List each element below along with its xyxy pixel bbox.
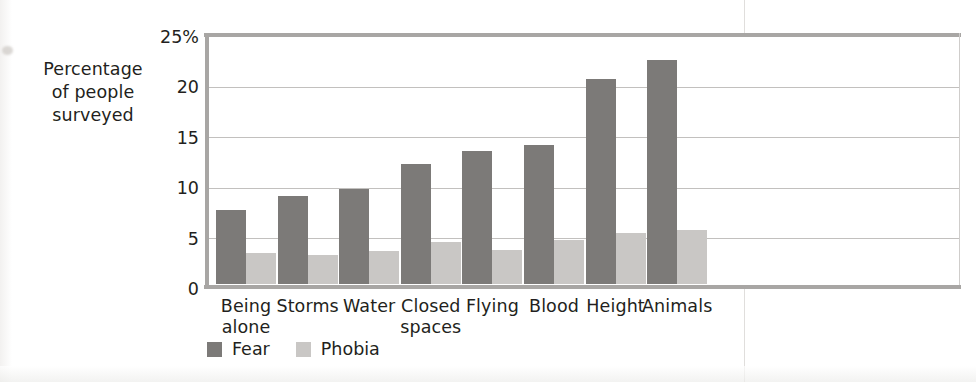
legend-label: Phobia [321,340,380,358]
bar-fear [216,210,246,284]
bar-group [524,32,584,284]
bar-phobia [554,240,584,284]
legend-label: Fear [232,340,270,358]
bar-group [462,32,522,284]
bar-fear [278,196,308,284]
legend-swatch-icon [296,342,311,357]
y-tick-label-0: 0 [139,280,199,298]
bar-group [647,32,707,284]
bar-group [401,32,461,284]
legend-item-fear[interactable]: Fear [207,340,270,358]
bar-fear [647,60,677,284]
y-axis-tick-labels: 0510152025% [135,0,199,382]
x-axis-line [204,285,961,289]
x-axis-tick-labels: BeingaloneStormsWaterClosedspacesFlyingB… [205,296,960,342]
bar-group [216,32,276,284]
y-tick-label-20: 20 [139,78,199,96]
x-tick-label-animals: Animals [629,296,725,317]
bar-fear [462,151,492,284]
x-tick-label-line-1: spaces [383,317,479,338]
bar-phobia [431,242,461,284]
y-tick-label-5: 5 [139,230,199,248]
bar-fear [524,145,554,284]
bar-phobia [492,250,522,284]
bar-group [586,32,646,284]
y-tick-label-25: 25% [139,28,199,46]
scan-artifact-speck [2,46,13,55]
chart-plot-area [205,33,960,288]
chart-legend: FearPhobia [207,340,380,358]
bar-fear [586,79,616,284]
bar-phobia [246,253,276,284]
y-tick-label-15: 15 [139,129,199,147]
x-tick-label-line-0: Animals [629,296,725,317]
bar-fear [401,164,431,284]
bar-fear [339,189,369,284]
bar-phobia [677,230,707,284]
bar-phobia [369,251,399,284]
x-tick-label-line-1: alone [198,317,294,338]
bar-phobia [308,255,338,284]
y-tick-label-10: 10 [139,179,199,197]
bar-groups [205,32,960,284]
legend-item-phobia[interactable]: Phobia [296,340,380,358]
legend-swatch-icon [207,342,222,357]
bar-phobia [616,233,646,284]
bar-group [278,32,338,284]
bar-group [339,32,399,284]
